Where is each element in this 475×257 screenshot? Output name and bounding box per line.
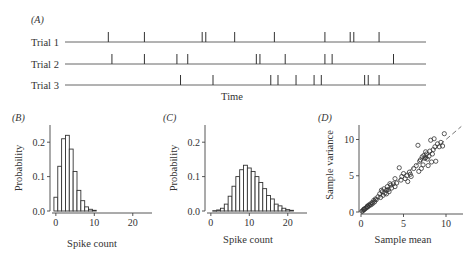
y-tick-label: 0.0 bbox=[188, 206, 201, 217]
x-tick-label: 10 bbox=[89, 217, 99, 228]
scatter-point bbox=[418, 159, 422, 163]
histogram-bar bbox=[274, 204, 278, 211]
y-tick-label: 0.1 bbox=[33, 171, 46, 182]
panel-a-x-label: Time bbox=[221, 91, 243, 102]
y-tick-label: 0.2 bbox=[188, 137, 201, 148]
histogram-bar bbox=[228, 196, 232, 211]
x-tick-label: 10 bbox=[244, 217, 254, 228]
histogram-bar bbox=[247, 168, 251, 211]
panel-d-scatter: (D) Sample mean Sample variance 05100510 bbox=[318, 112, 463, 245]
panel-d-y-label: Sample variance bbox=[324, 130, 335, 200]
histogram-bar bbox=[224, 204, 228, 211]
scatter-point bbox=[406, 179, 410, 183]
x-tick-label: 10 bbox=[441, 218, 451, 229]
histogram-bar bbox=[85, 207, 89, 211]
histogram-bar bbox=[92, 210, 96, 211]
histogram-bar bbox=[89, 209, 93, 211]
y-tick-label: 0.2 bbox=[33, 137, 46, 148]
scatter-point bbox=[397, 166, 401, 170]
scatter-point bbox=[430, 152, 434, 156]
histogram-bar bbox=[290, 210, 294, 211]
panel-b-label: (B) bbox=[12, 112, 25, 124]
x-tick-label: 5 bbox=[401, 218, 406, 229]
histogram-bar bbox=[263, 189, 267, 211]
scatter-point bbox=[393, 177, 397, 181]
histogram-bar bbox=[267, 196, 271, 211]
histogram-bar bbox=[270, 199, 274, 211]
histogram-bar bbox=[255, 177, 259, 211]
scatter-point bbox=[434, 159, 438, 163]
panel-a-label: (A) bbox=[31, 14, 44, 26]
histogram-bar bbox=[81, 201, 85, 211]
x-tick-label: 20 bbox=[128, 217, 138, 228]
y-tick-label: 10 bbox=[344, 134, 354, 145]
histogram-bar bbox=[244, 165, 248, 211]
histogram-bar bbox=[278, 206, 282, 211]
panel-c-x-label: Spike count bbox=[223, 234, 273, 245]
histogram-bar bbox=[282, 208, 286, 211]
histogram-bar bbox=[62, 139, 66, 211]
histogram-bar bbox=[217, 210, 221, 211]
histogram-bar bbox=[259, 182, 263, 211]
histogram-bar bbox=[240, 170, 244, 211]
scatter-point bbox=[416, 143, 420, 147]
trial-label: Trial 3 bbox=[31, 80, 59, 91]
identity-reference-line bbox=[361, 126, 461, 212]
panel-b-histogram: (B) Spike count Probability 010200.00.10… bbox=[12, 112, 152, 249]
panel-b-y-label: Probability bbox=[13, 144, 24, 191]
panel-a-raster: (A) Time Trial 1Trial 2Trial 3 bbox=[31, 14, 426, 102]
scatter-point bbox=[426, 164, 430, 168]
scatter-point bbox=[414, 164, 418, 168]
histogram-bar bbox=[251, 171, 255, 211]
histogram-bar bbox=[213, 211, 217, 212]
panel-d-label: (D) bbox=[318, 112, 333, 124]
histogram-bar bbox=[73, 171, 77, 211]
scatter-point bbox=[421, 163, 425, 167]
trial-label: Trial 2 bbox=[31, 59, 59, 70]
histogram-bar bbox=[220, 208, 224, 211]
y-tick-label: 0.1 bbox=[188, 171, 201, 182]
x-tick-label: 0 bbox=[359, 218, 364, 229]
y-tick-label: 0.0 bbox=[33, 206, 46, 217]
trial-label: Trial 1 bbox=[31, 37, 59, 48]
panel-c-y-label: Probability bbox=[168, 144, 179, 191]
histogram-bar bbox=[58, 166, 62, 211]
panel-b-x-label: Spike count bbox=[67, 238, 117, 249]
x-tick-label: 0 bbox=[208, 217, 213, 228]
scatter-point bbox=[429, 160, 433, 164]
histogram-bar bbox=[236, 177, 240, 211]
scatter-point bbox=[442, 132, 446, 136]
histogram-bar bbox=[232, 186, 236, 211]
panel-c-label: (C) bbox=[163, 112, 177, 124]
histogram-bar bbox=[286, 210, 290, 211]
histogram-bar bbox=[69, 149, 73, 211]
panel-c-histogram: (C) Spike count Probability 010200.00.10… bbox=[163, 112, 307, 245]
y-tick-label: 5 bbox=[349, 170, 354, 181]
panel-d-x-label: Sample mean bbox=[375, 234, 433, 245]
figure: (A) Time Trial 1Trial 2Trial 3 (B) Spike… bbox=[0, 0, 475, 257]
histogram-bar bbox=[54, 197, 58, 211]
histogram-bar bbox=[77, 190, 81, 211]
x-tick-label: 20 bbox=[283, 217, 293, 228]
x-tick-label: 0 bbox=[53, 217, 58, 228]
y-tick-label: 0 bbox=[349, 207, 354, 218]
histogram-bar bbox=[65, 135, 69, 211]
